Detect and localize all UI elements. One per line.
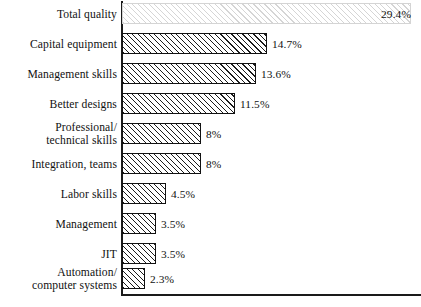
bar-value-label: 2.3%	[145, 268, 174, 289]
bar-value-label: 13.6%	[256, 63, 291, 84]
category-label: Management skills	[0, 60, 117, 90]
chart-row: Management 3.5%	[0, 210, 421, 240]
bar	[122, 123, 201, 144]
category-label: Automation/ computer systems	[0, 265, 117, 295]
bar	[122, 33, 267, 54]
bar	[122, 268, 145, 289]
chart-row: Labor skills 4.5%	[0, 180, 421, 210]
bar-value-label: 8%	[201, 123, 221, 144]
bar-value-label: 11.5%	[235, 93, 270, 114]
chart-row: Capital equipment 14.7%	[0, 30, 421, 60]
category-label: Better designs	[0, 90, 117, 120]
chart-row: Total quality 29.4%	[0, 0, 421, 30]
bar	[122, 153, 201, 174]
bar-value-label: 29.4%	[122, 3, 419, 24]
bar-value-label: 3.5%	[156, 243, 185, 264]
bar-value-label: 4.5%	[166, 183, 195, 204]
chart-row: Better designs 11.5%	[0, 90, 421, 120]
chart-row: Integration, teams 8%	[0, 150, 421, 180]
category-label: Total quality	[0, 0, 117, 30]
bar	[122, 183, 166, 204]
bar-chart: Total quality 29.4% Capital equipment 14…	[0, 0, 421, 307]
category-label: Integration, teams	[0, 150, 117, 180]
chart-row: Automation/ computer systems 2.3%	[0, 265, 421, 295]
bar	[122, 63, 256, 84]
bar	[122, 213, 156, 234]
bar	[122, 93, 235, 114]
category-label: Capital equipment	[0, 30, 117, 60]
bar-value-label: 8%	[201, 153, 221, 174]
category-label: Professional/ technical skills	[0, 120, 117, 150]
chart-row: Management skills 13.6%	[0, 60, 421, 90]
category-label: Labor skills	[0, 180, 117, 210]
bar	[122, 243, 156, 264]
bar-value-label: 3.5%	[156, 213, 185, 234]
category-label: Management	[0, 210, 117, 240]
bar-value-label: 14.7%	[267, 33, 302, 54]
chart-row: Professional/ technical skills 8%	[0, 120, 421, 150]
